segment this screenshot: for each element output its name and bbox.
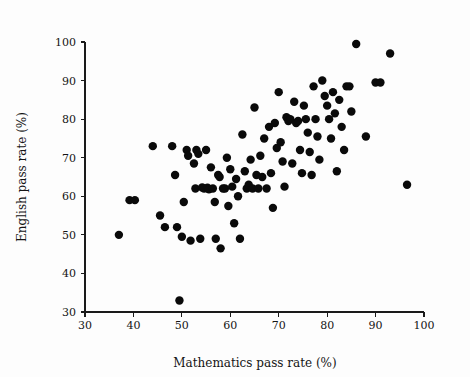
y-tick-label: 90 <box>62 75 76 88</box>
data-point <box>262 184 270 192</box>
data-point <box>271 119 279 127</box>
data-point <box>254 184 262 192</box>
data-point <box>184 152 192 160</box>
data-point <box>386 49 394 57</box>
data-point <box>329 88 337 96</box>
data-point <box>230 219 238 227</box>
data-point <box>347 107 355 115</box>
data-point <box>269 204 277 212</box>
data-point <box>403 181 411 189</box>
data-point <box>280 182 288 190</box>
y-tick-label: 100 <box>55 36 76 49</box>
data-point <box>194 150 202 158</box>
data-point <box>241 167 249 175</box>
data-point <box>331 109 339 117</box>
data-point <box>246 155 254 163</box>
data-point <box>228 182 236 190</box>
y-tick-label: 30 <box>62 306 76 319</box>
data-point <box>168 142 176 150</box>
data-point <box>156 211 164 219</box>
data-point <box>333 167 341 175</box>
y-tick-label: 70 <box>62 152 76 165</box>
data-point <box>290 98 298 106</box>
data-point <box>223 154 231 162</box>
data-point <box>352 40 360 48</box>
data-point <box>232 175 240 183</box>
data-point <box>313 132 321 140</box>
data-point <box>234 192 242 200</box>
data-point <box>311 115 319 123</box>
data-point <box>216 244 224 252</box>
data-point <box>278 157 286 165</box>
data-point <box>115 231 123 239</box>
data-point <box>258 173 266 181</box>
data-point <box>171 171 179 179</box>
x-tick-label: 90 <box>369 319 383 332</box>
y-tick-label: 60 <box>62 190 76 203</box>
x-tick-label: 60 <box>223 319 237 332</box>
x-tick-label: 30 <box>78 319 92 332</box>
data-point <box>238 130 246 138</box>
plot-canvas: 3040506070809010030405060708090100 Mathe… <box>0 0 470 377</box>
data-point <box>302 115 310 123</box>
data-point <box>337 123 345 131</box>
data-point <box>207 163 215 171</box>
data-point <box>335 96 343 104</box>
data-point <box>327 134 335 142</box>
data-point <box>298 169 306 177</box>
data-point <box>212 235 220 243</box>
data-point <box>178 233 186 241</box>
x-tick-label: 50 <box>175 319 189 332</box>
data-point <box>256 152 264 160</box>
data-point <box>186 236 194 244</box>
x-tick-label: 100 <box>414 319 435 332</box>
data-point <box>175 296 183 304</box>
data-point <box>275 88 283 96</box>
scatter-plot-figure: 3040506070809010030405060708090100 Mathe… <box>0 0 470 377</box>
data-point <box>340 146 348 154</box>
data-point <box>345 82 353 90</box>
data-point <box>250 103 258 111</box>
data-point <box>323 101 331 109</box>
data-point <box>149 142 157 150</box>
data-point <box>196 235 204 243</box>
data-point <box>309 82 317 90</box>
y-tick-label: 40 <box>62 267 76 280</box>
x-tick-label: 40 <box>126 319 140 332</box>
x-axis-title: Mathematics pass rate (%) <box>173 356 336 370</box>
data-point <box>209 184 217 192</box>
data-point <box>224 202 232 210</box>
data-point <box>306 148 314 156</box>
data-point <box>131 196 139 204</box>
data-point <box>321 92 329 100</box>
data-point <box>267 169 275 177</box>
data-point <box>294 117 302 125</box>
y-axis-title: English pass rate (%) <box>15 112 29 242</box>
y-tick-label: 50 <box>62 229 76 242</box>
y-tick-label: 80 <box>62 113 76 126</box>
data-points-group <box>115 40 412 305</box>
data-point <box>211 198 219 206</box>
data-point <box>190 159 198 167</box>
data-point <box>315 155 323 163</box>
data-point <box>215 173 223 181</box>
data-point <box>276 138 284 146</box>
x-tick-label: 70 <box>272 319 286 332</box>
data-point <box>300 101 308 109</box>
data-point <box>226 165 234 173</box>
x-tick-label: 80 <box>320 319 334 332</box>
data-point <box>376 78 384 86</box>
data-point <box>288 159 296 167</box>
data-point <box>161 223 169 231</box>
data-point <box>173 223 181 231</box>
data-point <box>180 198 188 206</box>
data-point <box>304 128 312 136</box>
data-point <box>221 184 229 192</box>
data-point <box>318 76 326 84</box>
data-point <box>296 146 304 154</box>
data-point <box>362 132 370 140</box>
data-point <box>236 235 244 243</box>
data-point <box>307 171 315 179</box>
data-point <box>202 146 210 154</box>
data-point <box>260 134 268 142</box>
